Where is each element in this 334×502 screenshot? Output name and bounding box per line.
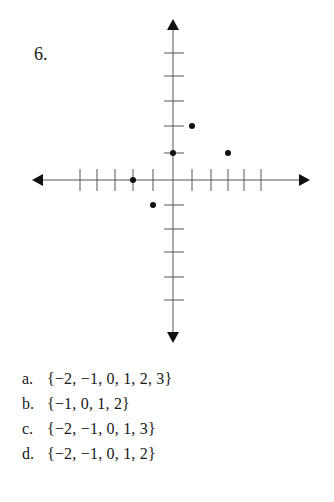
choice-set: {−2, −1, 0, 1, 2}: [47, 441, 156, 466]
choice-letter: d.: [22, 441, 42, 466]
data-point: [225, 150, 231, 156]
answer-choices: a. {−2, −1, 0, 1, 2, 3} b. {−1, 0, 1, 2}…: [22, 366, 172, 466]
choice-letter: b.: [22, 391, 42, 416]
data-point: [130, 177, 136, 183]
choice-set: {−1, 0, 1, 2}: [47, 391, 130, 416]
data-point: [170, 150, 176, 156]
data-points: [130, 123, 231, 208]
choice-set: {−2, −1, 0, 1, 3}: [47, 416, 156, 441]
data-point: [150, 202, 156, 208]
choice-b[interactable]: b. {−1, 0, 1, 2}: [22, 391, 172, 416]
choice-a[interactable]: a. {−2, −1, 0, 1, 2, 3}: [22, 366, 172, 391]
tick-marks: [80, 53, 261, 300]
choice-letter: c.: [22, 416, 42, 441]
y-axis-down-arrow-icon: [167, 332, 179, 343]
data-point: [189, 123, 195, 129]
choice-letter: a.: [22, 366, 42, 391]
y-axis-up-arrow-icon: [167, 19, 179, 30]
choice-c[interactable]: c. {−2, −1, 0, 1, 3}: [22, 416, 172, 441]
x-axis-right-arrow-icon: [299, 174, 310, 186]
x-axis-left-arrow-icon: [32, 174, 43, 186]
choice-d[interactable]: d. {−2, −1, 0, 1, 2}: [22, 441, 172, 466]
choice-set: {−2, −1, 0, 1, 2, 3}: [47, 366, 172, 391]
